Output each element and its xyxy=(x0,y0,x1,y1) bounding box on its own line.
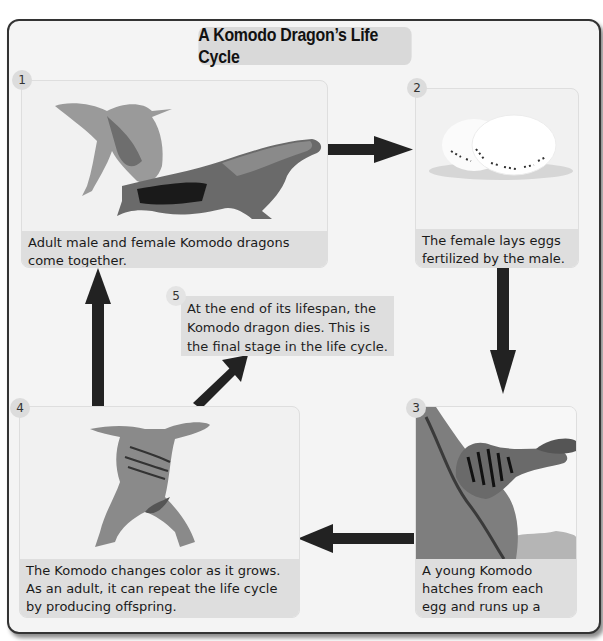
young-komodo-on-tree-image xyxy=(416,407,576,559)
stage-3-panel: A young Komodo hatches from each egg and… xyxy=(415,406,577,618)
komodo-adults-image xyxy=(22,81,327,231)
juvenile-komodo-image xyxy=(20,407,299,559)
stage-4-panel: The Komodo changes color as it grows. As… xyxy=(19,406,300,618)
stage-5-note: At the end of its lifespan, the Komodo d… xyxy=(181,296,394,356)
arrow-right-icon xyxy=(327,136,413,163)
arrow-left-icon xyxy=(298,524,414,553)
stage-1-number-badge: 1 xyxy=(12,70,32,90)
stage-3-illustration xyxy=(416,407,576,559)
eggs-image xyxy=(416,89,578,229)
stage-1-caption: Adult male and female Komodo dragons com… xyxy=(22,231,327,267)
stage-4-illustration xyxy=(20,407,299,559)
arrow-up-icon xyxy=(85,268,111,406)
stage-2-panel: The female lays eggs fertilized by the m… xyxy=(415,88,579,268)
stage-2-illustration xyxy=(416,89,578,229)
stage-2-caption: The female lays eggs fertilized by the m… xyxy=(416,229,578,267)
stage-1-panel: Adult male and female Komodo dragons com… xyxy=(21,80,328,268)
arrow-diagonal-icon xyxy=(193,355,248,409)
stage-2-number-badge: 2 xyxy=(407,78,427,98)
stage-4-number-badge: 4 xyxy=(10,398,30,418)
stage-5-number-badge: 5 xyxy=(166,286,186,306)
stage-1-illustration xyxy=(22,81,327,231)
stage-4-caption: The Komodo changes color as it grows. As… xyxy=(20,559,299,617)
arrow-down-icon xyxy=(490,268,516,394)
stage-3-caption: A young Komodo hatches from each egg and… xyxy=(416,559,576,617)
stage-3-number-badge: 3 xyxy=(406,398,426,418)
